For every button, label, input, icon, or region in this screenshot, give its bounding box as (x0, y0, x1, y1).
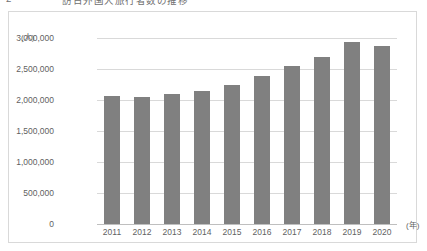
y-axis-tick-label: 3,000,000 (0, 34, 54, 43)
x-axis-tick-label: 2011 (97, 227, 127, 237)
x-axis-tick-label: 2018 (307, 227, 337, 237)
bar (254, 76, 271, 224)
x-axis-tick-label: 2019 (337, 227, 367, 237)
y-axis-tick-label: 500,000 (0, 189, 54, 198)
y-axis-tick-label: 2,500,000 (0, 65, 54, 74)
x-axis-tick-label: 2017 (277, 227, 307, 237)
x-axis-line (97, 224, 397, 225)
x-axis-tick-label: 2016 (247, 227, 277, 237)
x-axis-tick-label: 2012 (127, 227, 157, 237)
bar (374, 46, 391, 224)
bar (284, 66, 301, 224)
x-axis-tick-label: 2020 (367, 227, 397, 237)
x-axis-tick-label: 2013 (157, 227, 187, 237)
y-axis-tick-label: 1,000,000 (0, 158, 54, 167)
heading-text: 訪日外国人旅行者数の推移 (62, 0, 188, 5)
x-axis-tick-label: 2014 (187, 227, 217, 237)
bar (194, 91, 211, 224)
bar (224, 85, 241, 224)
bar (104, 96, 121, 224)
x-axis-unit-label: (年) (406, 219, 419, 230)
bar (344, 42, 361, 224)
bar (314, 57, 331, 224)
heading-number: 2 (6, 0, 11, 4)
bar (134, 97, 151, 224)
x-axis-tick-label: 2015 (217, 227, 247, 237)
x-axis-tick-labels: 2011201220132014201520162017201820192020 (97, 227, 397, 241)
bar-series (97, 38, 397, 224)
y-axis-tick-label: 2,000,000 (0, 96, 54, 105)
y-axis-tick-label: 1,500,000 (0, 127, 54, 136)
y-axis-tick-label: 0 (0, 220, 54, 229)
chart-frame: (人) (年) 0500,0001,000,0001,500,0002,000,… (8, 11, 417, 243)
chart-screenshot: 2 訪日外国人旅行者数の推移 (人) (年) 0500,0001,000,000… (0, 0, 427, 251)
document-heading: 2 訪日外国人旅行者数の推移 (0, 0, 427, 5)
bar (164, 94, 181, 224)
